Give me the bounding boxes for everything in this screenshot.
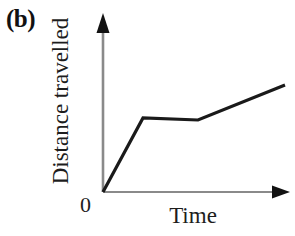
distance-travelled-line [103,85,285,192]
origin-tick-label: 0 [80,192,91,218]
figure-panel-b: (b) Distance travelled 0 Time [0,0,295,236]
plot-area [0,0,295,236]
y-axis-arrowhead [97,13,110,33]
x-axis-title: Time [143,202,243,229]
x-axis-arrowhead [272,186,290,199]
